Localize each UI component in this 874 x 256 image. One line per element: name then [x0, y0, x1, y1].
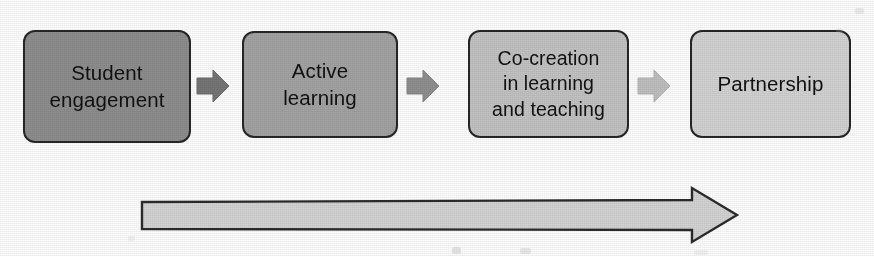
stage-box-active-learning: Active learning [242, 31, 398, 138]
stage-box-student-engagement: Student engagement [23, 30, 191, 143]
right-block-arrow-icon-3 [637, 68, 671, 104]
right-block-arrow-icon-2 [406, 68, 440, 104]
long-right-block-arrow-icon [140, 185, 740, 245]
process-flow-diagram: Student engagement Active learning Co-cr… [0, 0, 874, 256]
right-block-arrow-icon-1 [196, 68, 230, 104]
stage-box-partnership: Partnership [690, 30, 851, 138]
stage-box-co-creation-in-learning-and-teaching: Co-creation in learning and teaching [468, 30, 629, 138]
